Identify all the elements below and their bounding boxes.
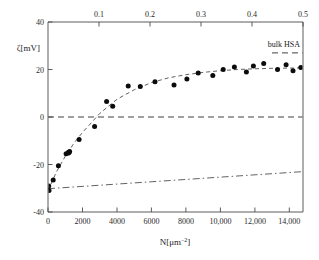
plot-frame <box>48 22 303 212</box>
y-tick-label-neg40: -40 <box>33 208 44 217</box>
x-tick-label-10000: 10,000 <box>209 217 231 226</box>
top-tick-label-0p1: 0.1 <box>94 10 104 19</box>
data-point <box>184 77 189 82</box>
x-axis-tick-labels-bottom: 0 2000 4000 6000 8000 10,000 12,000 14,0… <box>46 217 300 226</box>
lower-reference-dashdot-line <box>48 172 303 189</box>
data-point <box>275 67 280 72</box>
x-axis-tick-labels-top: 0.1 0.2 0.3 0.4 0.5 <box>94 10 308 19</box>
data-point <box>210 73 215 78</box>
top-tick-label-0p2: 0.2 <box>145 10 155 19</box>
x-axis-title-close: ] <box>187 237 190 247</box>
data-point <box>92 124 97 129</box>
x-tick-label-4000: 4000 <box>109 217 125 226</box>
bulk-hsa-label: bulk HSA <box>268 40 300 49</box>
x-tick-label-14000: 14,000 <box>278 217 300 226</box>
top-tick-label-0p4: 0.4 <box>247 10 257 19</box>
data-point <box>67 149 72 154</box>
data-point <box>77 137 82 142</box>
x-tick-label-12000: 12,000 <box>244 217 266 226</box>
data-point <box>196 71 201 76</box>
data-point <box>110 104 115 109</box>
y-tick-label-40: 40 <box>36 18 44 27</box>
data-point <box>47 188 52 193</box>
data-point <box>172 82 177 87</box>
data-point <box>251 64 256 69</box>
data-point <box>104 99 109 104</box>
data-point <box>51 177 56 182</box>
y-tick-label-0: 0 <box>40 113 44 122</box>
data-point <box>291 68 296 73</box>
x-tick-label-0: 0 <box>46 217 50 226</box>
data-point <box>244 69 249 74</box>
data-point <box>56 163 61 168</box>
data-point <box>261 61 266 66</box>
data-point <box>153 79 158 84</box>
x-axis-ticks-bottom <box>48 208 289 213</box>
data-point <box>126 84 131 89</box>
zeta-potential-scatter-chart: 40 20 0 -20 -40 ζ[mV] 0 2000 4000 6000 8… <box>0 0 319 260</box>
data-point <box>284 62 289 67</box>
x-axis-ticks-top <box>99 22 303 27</box>
y-axis-title: ζ[mV] <box>17 43 40 53</box>
x-tick-label-2000: 2000 <box>75 217 91 226</box>
data-point <box>138 84 143 89</box>
data-point <box>46 183 51 188</box>
figure-container: 40 20 0 -20 -40 ζ[mV] 0 2000 4000 6000 8… <box>0 0 319 260</box>
data-point <box>221 67 226 72</box>
x-tick-label-6000: 6000 <box>143 217 159 226</box>
x-axis-title: N[μm−2] <box>160 237 191 248</box>
y-tick-label-neg20: -20 <box>33 161 44 170</box>
top-tick-label-0p5: 0.5 <box>298 10 308 19</box>
top-tick-label-0p3: 0.3 <box>196 10 206 19</box>
data-point <box>232 65 237 70</box>
x-axis-title-base: N[μm <box>160 237 181 247</box>
x-tick-label-8000: 8000 <box>178 217 194 226</box>
scatter-points <box>46 61 303 193</box>
y-tick-label-20: 20 <box>36 66 44 75</box>
